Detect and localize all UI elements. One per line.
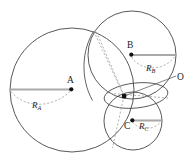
figure-canvas: [0, 0, 190, 162]
point-b: [129, 53, 133, 57]
radius-arc-a: [11, 92, 70, 105]
radius-arc-b: [132, 57, 175, 68]
chord-top-to-o: [94, 31, 124, 96]
point-a: [69, 87, 73, 91]
leader-line-o: [125, 76, 177, 96]
radius-arc-c: [133, 122, 161, 128]
radius-segments: [11, 55, 176, 121]
radius-arcs: [11, 57, 175, 128]
point-o: [122, 94, 126, 98]
chord-o-to-bottom: [113, 96, 125, 148]
geometry-figure: A B C O RA RB RC: [0, 0, 190, 162]
point-c: [130, 118, 134, 122]
lens-ab: [84, 32, 94, 101]
